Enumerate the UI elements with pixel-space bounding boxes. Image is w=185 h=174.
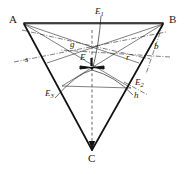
- line-label-s: s: [25, 55, 29, 64]
- point-label-e3: E3: [45, 89, 54, 98]
- point-label-e3-text: E: [45, 88, 51, 98]
- arc-left: [55, 70, 92, 98]
- line-label-b: b: [154, 42, 159, 51]
- point-label-e-text: E: [80, 52, 86, 62]
- triangle-side-ac: [24, 24, 92, 150]
- segment-e3-e2: [62, 86, 131, 88]
- vertex-label-c: C: [88, 153, 95, 164]
- segment-a-e2: [24, 24, 131, 88]
- figure-canvas: [0, 0, 185, 174]
- point-label-e: E: [80, 53, 86, 62]
- point-label-e2: E2: [135, 78, 144, 87]
- vertex-label-b: B: [169, 14, 176, 25]
- point-label-e1-text: E: [95, 6, 101, 16]
- vertex-label-a: A: [9, 14, 17, 25]
- point-label-e3-sub: 3: [51, 92, 54, 99]
- point-label-e2-sub: 2: [141, 81, 144, 88]
- tick-above-e: [90, 58, 92, 66]
- arrowhead-left: [80, 66, 91, 69]
- line-label-r: r: [126, 53, 130, 62]
- segment-b-fan: [47, 24, 163, 63]
- geometry-figure: A B C E E1 E2 E3 g s b r h: [0, 0, 185, 174]
- arc-right: [92, 70, 133, 95]
- line-label-h: h: [134, 91, 139, 100]
- line-label-g: g: [70, 40, 75, 49]
- point-label-e1: E1: [95, 7, 104, 16]
- point-e-dot: [91, 67, 94, 70]
- point-label-e1-sub: 1: [101, 10, 104, 17]
- point-label-e2-text: E: [135, 77, 141, 87]
